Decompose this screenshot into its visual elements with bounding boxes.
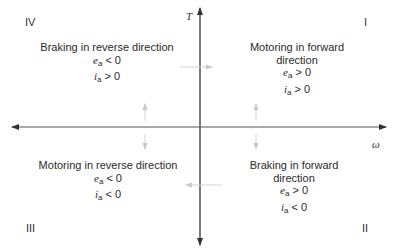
quadrant-numeral-i: I [364, 16, 367, 28]
quadrant-ii-ia-condition: ia < 0 [242, 201, 346, 218]
quadrant-ii-ea-condition: ea > 0 [242, 184, 346, 201]
quadrant-numeral-iii: III [26, 222, 35, 234]
quadrant-ii-title: Braking in forward direction [242, 159, 346, 184]
quadrant-i-description: Motoring in forward direction ea > 0 ia … [247, 41, 348, 99]
quadrant-iii-title: Motoring in reverse direction [39, 159, 178, 172]
quadrant-iv-ia-condition: ia > 0 [40, 70, 173, 87]
quadrant-i-ea-condition: ea > 0 [247, 66, 348, 83]
torque-axis-label: T [186, 10, 192, 22]
quadrant-iv-title: Braking in reverse direction [40, 41, 173, 54]
quadrant-ii-description: Braking in forward direction ea > 0 ia <… [242, 159, 346, 217]
quadrant-iii-description: Motoring in reverse direction ea < 0 ia … [39, 159, 178, 205]
quadrant-iii-ia-condition: ia < 0 [39, 188, 178, 205]
quadrant-i-title: Motoring in forward direction [247, 41, 348, 66]
quadrant-numeral-iv: IV [25, 16, 35, 28]
quadrant-numeral-ii: II [362, 222, 368, 234]
quadrant-iv-description: Braking in reverse direction ea < 0 ia >… [40, 41, 173, 87]
quadrant-iii-ea-condition: ea < 0 [39, 172, 178, 189]
quadrant-i-ia-condition: ia > 0 [247, 83, 348, 100]
speed-axis-label: ω [372, 138, 380, 150]
quadrant-iv-ea-condition: ea < 0 [40, 54, 173, 71]
